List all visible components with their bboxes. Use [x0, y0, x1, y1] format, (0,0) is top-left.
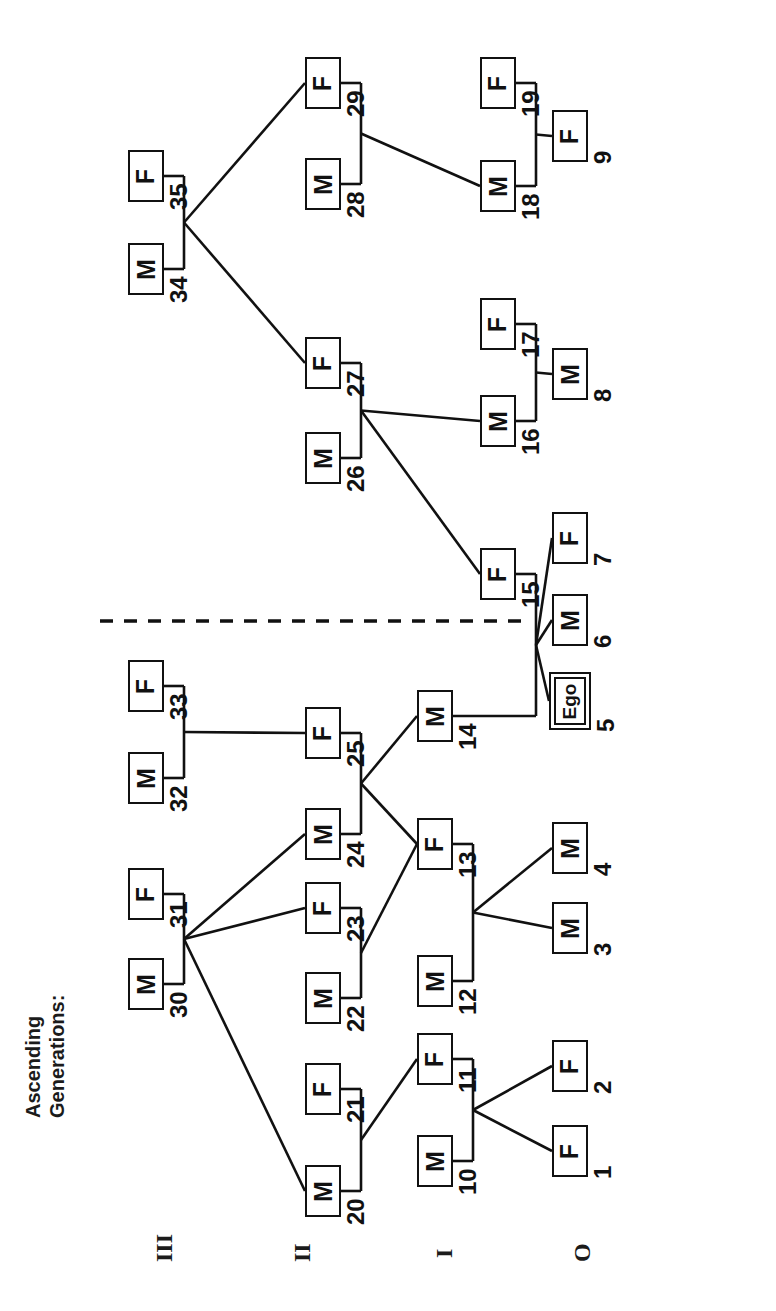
sex-glyph: F	[311, 1081, 336, 1096]
person-node-18[interactable]: M	[480, 160, 516, 212]
ego-node-5[interactable]: Ego	[549, 672, 591, 730]
descent-28-18	[361, 134, 480, 187]
person-node-10[interactable]: M	[417, 1135, 453, 1187]
sex-glyph: M	[422, 1151, 447, 1172]
person-node-3[interactable]: M	[552, 902, 588, 954]
sex-glyph: M	[557, 918, 582, 939]
sex-glyph: M	[310, 824, 335, 845]
caption-text: Ascending Generations:	[22, 995, 69, 1118]
sex-glyph: M	[310, 988, 335, 1009]
descent-18-9	[536, 135, 552, 137]
descent-32-25	[184, 732, 305, 733]
generation-label-iii: III	[152, 1234, 176, 1262]
descent-20-11	[361, 1059, 417, 1140]
sex-glyph: Ego	[561, 683, 580, 719]
node-id-label-2: 2	[591, 1081, 615, 1094]
person-node-31[interactable]: F	[128, 868, 164, 920]
node-id-label-23: 23	[344, 915, 368, 942]
node-id-label-18: 18	[519, 193, 543, 220]
person-node-29[interactable]: F	[305, 57, 341, 109]
descent-12-3	[473, 913, 552, 929]
person-node-16[interactable]: M	[480, 395, 516, 447]
descent-16-8	[536, 373, 552, 375]
node-id-label-31: 31	[167, 901, 191, 928]
person-node-15[interactable]: F	[480, 548, 516, 600]
descent-26-16	[361, 411, 480, 422]
descent-10-2	[473, 1066, 552, 1110]
node-id-label-10: 10	[456, 1168, 480, 1195]
sex-glyph: M	[485, 411, 510, 432]
node-id-label-26: 26	[344, 465, 368, 492]
person-node-12[interactable]: M	[417, 955, 453, 1007]
node-id-label-25: 25	[344, 740, 368, 767]
person-node-7[interactable]: F	[552, 512, 588, 564]
person-node-17[interactable]: F	[480, 298, 516, 350]
node-id-label-21: 21	[344, 1096, 368, 1123]
sex-glyph: M	[422, 971, 447, 992]
person-node-6[interactable]: M	[552, 594, 588, 646]
sex-glyph: F	[423, 1051, 448, 1066]
sex-glyph: M	[310, 1181, 335, 1202]
sex-glyph: M	[485, 176, 510, 197]
node-id-label-1: 1	[591, 1166, 615, 1179]
diagram-lines	[0, 0, 776, 1311]
person-node-21[interactable]: F	[305, 1063, 341, 1115]
sex-glyph: F	[486, 316, 511, 331]
person-node-4[interactable]: M	[552, 822, 588, 874]
sex-glyph: F	[311, 900, 336, 915]
descent-12-4	[473, 848, 552, 913]
node-id-label-35: 35	[167, 183, 191, 210]
person-node-14[interactable]: M	[417, 690, 453, 742]
person-node-19[interactable]: F	[480, 57, 516, 109]
sex-glyph: M	[557, 364, 582, 385]
node-id-label-4: 4	[591, 863, 615, 876]
node-id-label-13: 13	[456, 851, 480, 878]
person-node-25[interactable]: F	[305, 707, 341, 759]
sex-glyph: F	[486, 566, 511, 581]
sex-glyph: F	[486, 75, 511, 90]
person-node-23[interactable]: F	[305, 882, 341, 934]
person-node-20[interactable]: M	[305, 1165, 341, 1217]
sex-glyph: F	[558, 128, 583, 143]
node-id-label-15: 15	[519, 581, 543, 608]
person-node-35[interactable]: F	[128, 150, 164, 202]
descent-14-5	[536, 645, 549, 701]
sex-glyph: F	[558, 1143, 583, 1158]
kinship-diagram: FFMMEgoMFMFMFMFMFMFMFMFMFMFMFMFMFMFMF 12…	[0, 0, 776, 1311]
person-node-28[interactable]: M	[305, 158, 341, 210]
person-node-13[interactable]: F	[417, 818, 453, 870]
person-node-32[interactable]: M	[128, 752, 164, 804]
sex-glyph: F	[311, 75, 336, 90]
node-id-label-34: 34	[167, 276, 191, 303]
sex-glyph: F	[134, 168, 159, 183]
sex-glyph: F	[423, 836, 448, 851]
person-node-22[interactable]: M	[305, 972, 341, 1024]
person-node-8[interactable]: M	[552, 348, 588, 400]
person-node-1[interactable]: F	[552, 1125, 588, 1177]
node-id-label-20: 20	[344, 1198, 368, 1225]
descent-22-13	[361, 844, 417, 953]
generation-label-ii: II	[290, 1243, 314, 1262]
ego-inner-frame: Ego	[554, 677, 586, 725]
person-node-24[interactable]: M	[305, 808, 341, 860]
sex-glyph: M	[557, 610, 582, 631]
person-node-9[interactable]: F	[552, 110, 588, 162]
person-node-34[interactable]: M	[128, 243, 164, 295]
sex-glyph: M	[310, 448, 335, 469]
person-node-26[interactable]: M	[305, 432, 341, 484]
node-id-label-6: 6	[591, 635, 615, 648]
node-id-label-30: 30	[167, 991, 191, 1018]
sex-glyph: F	[311, 355, 336, 370]
node-id-label-28: 28	[344, 191, 368, 218]
node-id-label-19: 19	[519, 90, 543, 117]
person-node-33[interactable]: F	[128, 660, 164, 712]
descent-24-14	[361, 716, 417, 784]
sex-glyph: F	[558, 530, 583, 545]
person-node-11[interactable]: F	[417, 1033, 453, 1085]
person-node-2[interactable]: F	[552, 1040, 588, 1092]
node-id-label-32: 32	[167, 785, 191, 812]
descent-26-15	[361, 411, 480, 575]
person-node-30[interactable]: M	[128, 958, 164, 1010]
descent-24-13	[361, 784, 417, 845]
person-node-27[interactable]: F	[305, 337, 341, 389]
